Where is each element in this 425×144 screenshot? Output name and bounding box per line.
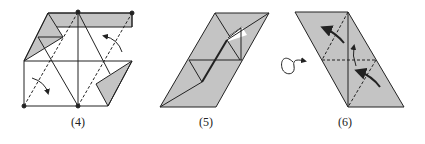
step-6-label: (6) [338,115,352,130]
turn-over-icon [282,58,305,74]
step-5-label: (5) [199,115,213,130]
step-6-diagram [295,12,404,107]
step-4-diagram [22,10,134,108]
step-5-diagram [160,13,269,107]
step-4-label: (4) [71,115,85,130]
